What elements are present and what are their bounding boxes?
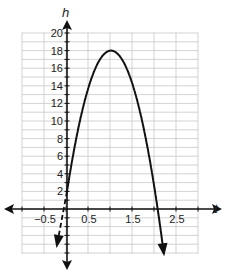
arrowheads xyxy=(4,20,222,270)
y-tick-label: 8 xyxy=(57,133,63,145)
y-tick-label: 18 xyxy=(51,45,63,57)
y-tick-label: 6 xyxy=(57,150,63,162)
y-axis-label: h xyxy=(62,5,69,20)
y-tick-label: 4 xyxy=(57,168,63,180)
axes xyxy=(8,22,218,266)
y-tick-label: 20 xyxy=(51,27,63,39)
y-tick-label: 2 xyxy=(57,185,63,197)
x-tick-label: 0.5 xyxy=(81,213,96,225)
y-tick-label: 14 xyxy=(51,80,63,92)
y-tick-label: 10 xyxy=(51,115,63,127)
tick-labels: 2468101214161820−0.50.51.52.5 xyxy=(34,27,185,225)
x-tick-label: 2.5 xyxy=(169,213,184,225)
x-tick-label: 1.5 xyxy=(125,213,140,225)
x-tick-label: −0.5 xyxy=(34,213,56,225)
y-tick-label: 12 xyxy=(51,97,63,109)
chart: 2468101214161820−0.50.51.52.5 t h xyxy=(0,0,230,274)
y-tick-label: 16 xyxy=(51,62,63,74)
